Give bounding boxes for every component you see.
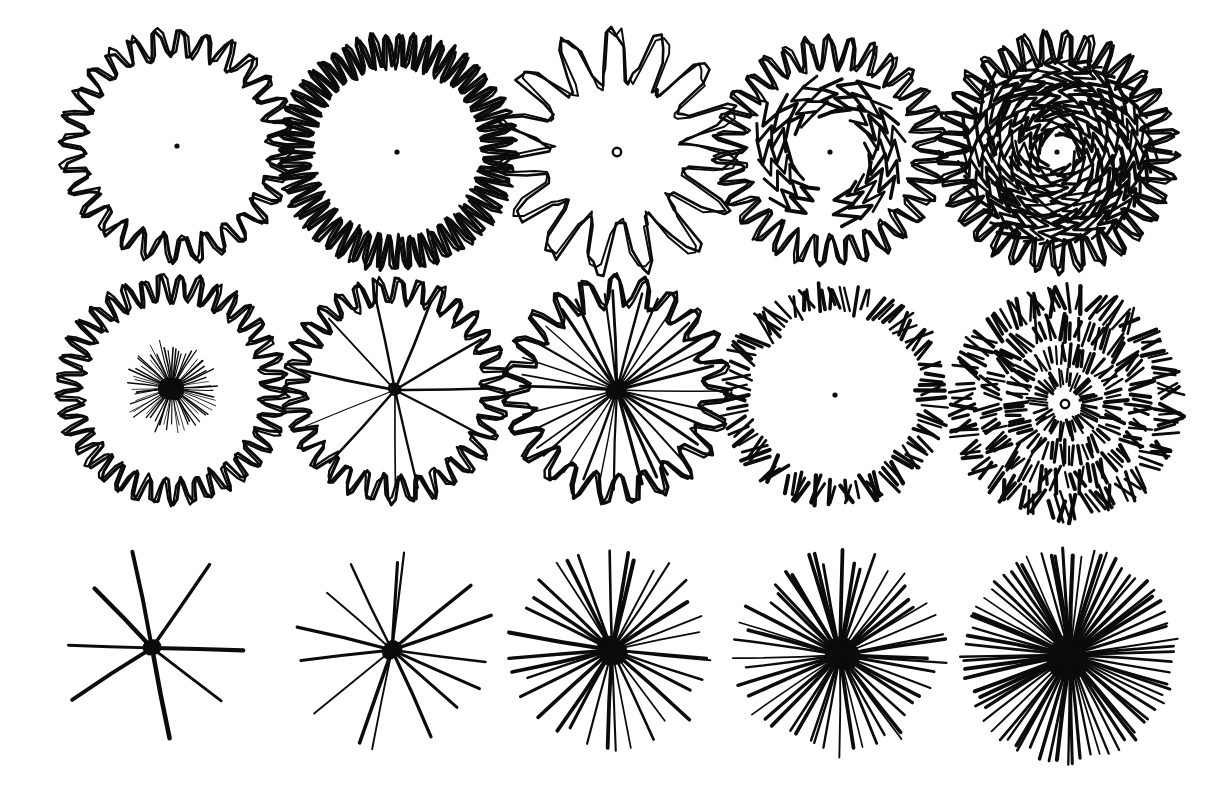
radial-dash bbox=[1077, 351, 1079, 367]
radial-dash bbox=[1039, 466, 1042, 489]
ray bbox=[619, 338, 702, 389]
radial-dash bbox=[1133, 399, 1151, 403]
ray-hub-blot bbox=[151, 642, 157, 648]
ray-hub-blot bbox=[825, 640, 848, 663]
radial-dash bbox=[1153, 358, 1171, 361]
radial-dash bbox=[1008, 383, 1030, 387]
ray-hub-blot bbox=[384, 645, 394, 655]
radial-dash bbox=[1030, 403, 1047, 405]
ray bbox=[537, 391, 615, 448]
center-dot bbox=[394, 149, 399, 154]
ray bbox=[152, 650, 169, 738]
radial-dash bbox=[854, 287, 859, 316]
ray bbox=[618, 323, 689, 389]
radial-dash bbox=[1072, 446, 1074, 465]
ray-hub-blot bbox=[1053, 642, 1079, 668]
pattern-plate bbox=[0, 0, 1225, 799]
radial-dash bbox=[1067, 369, 1068, 382]
ray bbox=[397, 391, 480, 435]
radial-dash bbox=[949, 389, 974, 393]
ring-dashes-2 bbox=[1005, 343, 1128, 465]
ray-group-0 bbox=[733, 550, 947, 758]
radial-dash bbox=[1125, 404, 1150, 407]
ray bbox=[351, 564, 391, 648]
center-dot bbox=[827, 149, 832, 154]
radial-dash bbox=[1056, 346, 1057, 364]
radial-dash bbox=[792, 474, 795, 495]
figure-concentric-dash-rings bbox=[935, 274, 1195, 534]
radial-dash bbox=[1065, 317, 1067, 342]
ray bbox=[394, 651, 458, 707]
ray-group-0 bbox=[509, 551, 710, 751]
radial-dash bbox=[1056, 469, 1057, 493]
radial-dash bbox=[1087, 464, 1090, 481]
ray bbox=[397, 388, 495, 390]
center-dot bbox=[1054, 149, 1059, 154]
zigzag-mark bbox=[770, 181, 807, 210]
radial-dash bbox=[855, 481, 859, 498]
radial-dash bbox=[1061, 371, 1063, 384]
radial-dash bbox=[1043, 442, 1049, 459]
radial-dash bbox=[1159, 413, 1179, 414]
radial-dash bbox=[1049, 501, 1054, 518]
radial-dash bbox=[767, 455, 778, 481]
radial-dash bbox=[1141, 464, 1160, 469]
radial-dash bbox=[785, 476, 788, 493]
ray bbox=[297, 627, 390, 649]
radial-dash bbox=[1104, 406, 1121, 409]
radial-dash bbox=[1070, 323, 1071, 339]
figure-eight-ray-burst bbox=[22, 518, 282, 778]
ray-hub-blot bbox=[145, 640, 159, 654]
radial-dash bbox=[963, 456, 982, 458]
ray-group-0 bbox=[68, 552, 243, 739]
figure-zigzag-ring-with-fine-starburst bbox=[42, 260, 302, 520]
ray bbox=[301, 650, 390, 660]
ray bbox=[394, 585, 471, 648]
ray-hub-blot bbox=[608, 382, 620, 394]
zigzag-mark bbox=[802, 76, 827, 116]
radial-dash bbox=[1051, 443, 1052, 459]
radial-dash bbox=[1060, 422, 1061, 440]
figure-thirty-ray-burst bbox=[482, 520, 742, 780]
radial-dash bbox=[1082, 323, 1090, 346]
radial-dash bbox=[1025, 361, 1036, 370]
ray bbox=[397, 339, 481, 389]
ray bbox=[153, 565, 209, 647]
radial-dash bbox=[1151, 451, 1170, 452]
radial-dash bbox=[1070, 474, 1075, 488]
radial-dash bbox=[982, 384, 997, 385]
radial-dash bbox=[988, 373, 1004, 376]
ray-group-0 bbox=[297, 553, 491, 750]
radial-dash bbox=[1049, 348, 1052, 362]
radial-dash bbox=[1069, 374, 1070, 386]
ray bbox=[154, 648, 243, 650]
ray bbox=[394, 615, 491, 649]
center-dot bbox=[174, 143, 179, 148]
radial-dash bbox=[1106, 425, 1119, 429]
radial-dash bbox=[861, 290, 867, 308]
radial-dash bbox=[983, 409, 1001, 414]
ray bbox=[396, 303, 431, 388]
radial-dash bbox=[953, 415, 969, 419]
radial-dash bbox=[1065, 472, 1068, 487]
radial-dash bbox=[1130, 423, 1144, 427]
ring-dashes-3 bbox=[1027, 369, 1102, 441]
radial-dash bbox=[953, 365, 978, 368]
ray bbox=[68, 645, 150, 648]
figure-fifty-ray-burst bbox=[710, 525, 970, 785]
radial-dash bbox=[1007, 393, 1027, 394]
ray bbox=[839, 657, 840, 757]
radial-dash bbox=[731, 361, 749, 369]
radial-dash bbox=[1054, 440, 1057, 463]
ray bbox=[613, 652, 654, 740]
ray-group-0 bbox=[128, 340, 218, 432]
radial-dash bbox=[1093, 465, 1097, 487]
center-dot bbox=[832, 392, 837, 397]
radial-dash bbox=[829, 480, 831, 505]
radial-dash bbox=[822, 290, 825, 309]
radial-dash bbox=[1081, 351, 1083, 367]
radial-dash bbox=[1030, 296, 1031, 320]
radial-dash bbox=[1153, 368, 1176, 371]
ray bbox=[576, 300, 616, 388]
ray-hub-blot bbox=[599, 639, 624, 664]
